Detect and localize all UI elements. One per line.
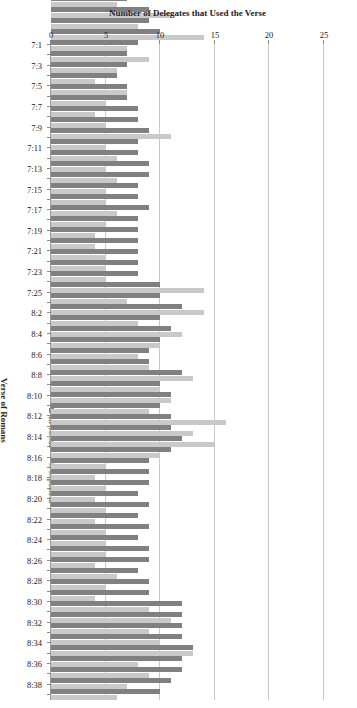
category-tick-mark — [47, 281, 51, 282]
bar-row — [51, 359, 324, 370]
bar-mponela — [51, 552, 106, 557]
value-axis-title: Number of Delegates that Used the Verse — [51, 8, 324, 18]
bar-liwonde — [51, 678, 171, 683]
category-tick-text: 8:26 — [27, 556, 42, 566]
bar-row — [51, 535, 324, 546]
category-tick-label — [5, 648, 51, 658]
bar-liwonde — [51, 612, 182, 617]
bar-liwonde — [51, 601, 182, 606]
value-tick-mark — [50, 40, 51, 44]
bar-mponela — [51, 68, 117, 73]
category-tick-label — [5, 401, 51, 411]
category-tick-label — [5, 525, 51, 535]
bar-row — [51, 51, 324, 62]
bar-mponela — [51, 398, 171, 403]
category-tick-text: 8:16 — [27, 453, 42, 463]
bar-mponela — [51, 662, 138, 667]
category-tick-text: 8:30 — [27, 597, 42, 607]
category-tick-text: 7:21 — [27, 246, 42, 256]
category-tick-mark — [47, 364, 51, 365]
category-tick-label — [5, 236, 51, 246]
category-tick-mark — [47, 684, 51, 685]
category-tick-label — [5, 607, 51, 617]
bar-liwonde — [51, 216, 138, 221]
bar-liwonde — [51, 469, 149, 474]
bar-liwonde — [51, 381, 160, 386]
bar-mponela — [51, 618, 171, 623]
bar-liwonde — [51, 260, 138, 265]
category-tick-text: 8:6 — [31, 350, 42, 360]
category-tick-mark — [47, 673, 51, 674]
bar-mponela — [51, 244, 95, 249]
category-tick-label: 7:13 — [5, 164, 51, 174]
category-tick-mark — [47, 323, 51, 324]
bar-row — [51, 249, 324, 260]
category-tick-label — [5, 442, 51, 452]
category-tick-label — [5, 422, 51, 432]
bar-liwonde — [51, 645, 193, 650]
bar-liwonde — [51, 491, 138, 496]
bar-row — [51, 579, 324, 590]
category-tick-mark — [47, 436, 51, 437]
bar-row — [51, 84, 324, 95]
bar-row — [51, 73, 324, 84]
bar-mponela — [51, 288, 204, 293]
category-tick-mark — [47, 611, 51, 612]
category-tick-text: 7:9 — [31, 123, 42, 133]
bar-mponela — [51, 123, 106, 128]
category-tick-label: 7:1 — [5, 40, 51, 50]
category-tick-label — [5, 174, 51, 184]
category-tick-mark — [47, 591, 51, 592]
category-tick-mark — [47, 601, 51, 602]
bar-liwonde — [51, 425, 171, 430]
value-tick-label: 10 — [156, 30, 165, 40]
bar-mponela — [51, 387, 160, 392]
category-tick-mark — [47, 580, 51, 581]
bar-row — [51, 491, 324, 502]
bar-row — [51, 678, 324, 689]
bar-liwonde — [51, 458, 149, 463]
bar-mponela — [51, 695, 117, 700]
category-tick-mark — [47, 488, 51, 489]
category-tick-mark — [47, 446, 51, 447]
bar-row — [51, 172, 324, 183]
bar-row — [51, 128, 324, 139]
category-tick-text: 8:8 — [31, 370, 42, 380]
bar-liwonde — [51, 579, 149, 584]
bar-mponela — [51, 497, 95, 502]
category-tick-mark — [47, 230, 51, 231]
bar-row — [51, 0, 324, 7]
category-tick-text: 7:3 — [31, 61, 42, 71]
category-tick-label — [5, 298, 51, 308]
bar-row — [51, 590, 324, 601]
category-tick-label: 8:30 — [5, 597, 51, 607]
bar-liwonde — [51, 414, 171, 419]
bar-row — [51, 436, 324, 447]
bar-row — [51, 370, 324, 381]
category-tick-label: 8:4 — [5, 329, 51, 339]
category-tick-label — [5, 257, 51, 267]
bar-mponela — [51, 211, 117, 216]
bar-mponela — [51, 134, 171, 139]
bar-mponela — [51, 145, 106, 150]
bar-row — [51, 612, 324, 623]
category-tick-mark — [47, 477, 51, 478]
bar-mponela — [51, 46, 127, 51]
bar-row — [51, 502, 324, 513]
category-tick-mark — [47, 653, 51, 654]
bar-row — [51, 271, 324, 282]
bar-liwonde — [51, 84, 127, 89]
value-tick-label: 25 — [320, 30, 329, 40]
category-tick-mark — [47, 354, 51, 355]
bar-mponela — [51, 629, 149, 634]
rotated-figure: Liwonde Mponela 8:388:368:348:328:308:28… — [0, 0, 357, 708]
category-tick-mark — [47, 405, 51, 406]
bar-mponela — [51, 409, 149, 414]
category-tick-mark — [47, 240, 51, 241]
category-tick-label: 8:38 — [5, 679, 51, 689]
category-tick-text: 7:13 — [27, 164, 42, 174]
category-tick-label: 8:28 — [5, 576, 51, 586]
category-tick-label — [5, 504, 51, 514]
bar-mponela — [51, 574, 117, 579]
category-tick-label: 8:16 — [5, 453, 51, 463]
